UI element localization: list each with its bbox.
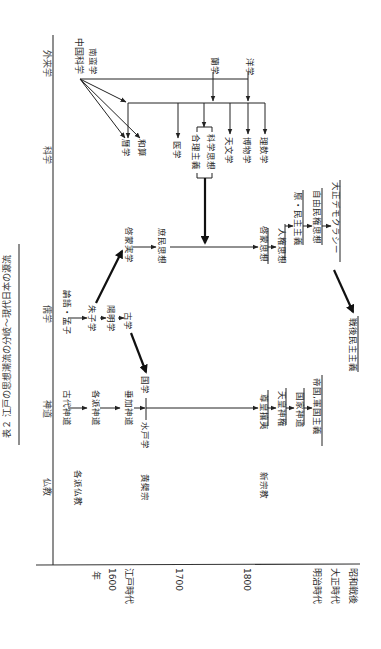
node-shushigaku: 朱子学 [87,305,97,332]
node-shin-shukyo: 新宗教 [259,472,269,499]
node-kokugaku: 国学 [140,376,150,394]
node-rongo-moshi: 論語・孟子 [62,290,72,335]
foreign-science-group: 中国科学 南蛮学 蘭学 洋学 暦学 和算 医学 合理主義 科学思想 天文学 博物… [74,38,269,243]
node-nanban-gaku: 南蛮学 [88,48,98,75]
node-shomin-shiso: 庶民思想 [157,228,167,264]
node-hakubutsugaku: 博物学 [242,137,252,164]
confucian-group: 論語・孟子 朱子学 陽明学 古学 戦後民主主義 [62,251,358,372]
period-showa-sengo: 昭和戦後 [348,568,359,604]
node-risugaku: 理数学 [259,137,269,164]
node-yogaku: 洋学 [245,58,255,76]
node-kogaku: 古学 [123,312,133,330]
period-edo: 江戸時代 [124,568,134,604]
node-igaku: 医学 [172,141,182,159]
node-tenmongaku: 天文学 [224,137,234,164]
democracy-chain: 啓蒙実学 庶民思想 啓蒙思想 人権思想 原・民主主義 自由民権思想 大正デモクラ… [124,180,353,312]
tick-1800: 1800 [242,568,252,591]
node-mitogaku: 水戸学 [140,422,150,449]
year-unit-label: 年 [91,571,102,580]
diagram-title: 表２ 江戸の思想潮流の分岐～現代日本の源流 [1,244,19,445]
node-keimo-jitsugaku: 啓蒙実学 [124,227,134,263]
row-headers: 外来学 科学 儒学 神道 仏教 [42,50,53,496]
tick-1600: 1600 [107,568,117,591]
node-kakuha-shinto: 各派神道 [91,390,101,426]
tick-1700: 1700 [174,568,184,591]
node-kakuha-bukkyo: 各派仏教 [73,470,83,506]
node-jiyu-minken-shiso: 自由民権思想 [312,190,322,244]
row-header-confucian: 儒学 [42,305,53,323]
node-kagaku-shiso: 科学思想 [206,134,216,170]
row-header-science: 科学 [42,146,53,164]
shinto-group: 古代神道 各派神道 垂加神道 国学 水戸学 尊皇攘夷 天皇神権 国家神道 帝国,… [62,375,322,449]
row-header-foreign: 外来学 [42,50,53,77]
node-teikoku-gunkoku-shugi: 帝国,軍国主義 [312,378,322,435]
node-suika-shinto: 垂加神道 [124,390,134,426]
node-wasan: 和算 [137,139,147,157]
row-header-buddhism: 仏教 [42,478,53,496]
node-gen-minshu-shugi: 原・民主主義 [293,192,303,246]
node-obakushu: 黄檗宗 [140,474,150,501]
row-header-shinto: 神道 [42,400,53,418]
time-axis [36,564,360,565]
node-sengo-minshu-shugi: 戦後民主主義 [348,318,358,372]
period-meiji: 明治時代 [312,568,323,604]
buddhism-group: 各派仏教 黄檗宗 新宗教 [73,470,269,506]
period-taisho: 大正時代 [330,568,341,604]
svg-text:表２ 江戸の思想潮流の分岐～現代日本の源流: 表２ 江戸の思想潮流の分岐～現代日本の源流 [1,255,12,438]
node-rangaku: 蘭学 [210,57,220,75]
node-yomeigaku: 陽明学 [106,305,116,332]
node-gouri-shugi: 合理主義 [191,134,201,170]
thought-flow-diagram: 表２ 江戸の思想潮流の分岐～現代日本の源流 外来学 科学 儒学 神道 仏教 年 … [0,0,381,649]
node-chugoku-kagaku: 中国科学 [74,38,85,74]
time-axis-labels: 年 1600 江戸時代 1700 1800 明治時代 大正時代 昭和戦後 [91,568,359,604]
node-rekigaku: 暦学 [121,139,131,157]
